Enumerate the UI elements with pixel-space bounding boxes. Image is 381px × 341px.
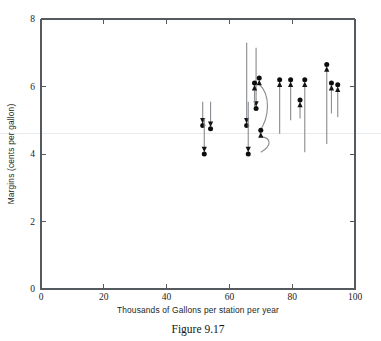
arrow-head xyxy=(288,81,293,87)
x-tick-label: 40 xyxy=(162,292,172,302)
data-point-dot xyxy=(252,81,257,86)
data-point-dot xyxy=(208,126,213,131)
data-arrows-group xyxy=(200,43,340,157)
x-tick-label: 20 xyxy=(99,292,109,302)
arrow-head xyxy=(297,102,302,108)
data-point-dot xyxy=(202,152,207,157)
data-point-dot xyxy=(277,77,282,82)
x-tick-label: 100 xyxy=(348,292,363,302)
data-point-dot xyxy=(254,106,259,111)
arrow-shaft-curved xyxy=(259,84,267,132)
x-axis-title: Thousands of Gallons per station per yea… xyxy=(117,305,279,315)
x-axis-tick-labels: 020406080100 xyxy=(39,292,363,302)
data-arrow xyxy=(258,128,269,153)
arrow-head xyxy=(202,147,207,153)
data-arrow xyxy=(257,75,268,132)
data-point-dot xyxy=(335,82,340,87)
data-arrow xyxy=(329,81,334,114)
y-tick-label: 4 xyxy=(30,149,35,159)
y-tick-label: 6 xyxy=(30,82,35,92)
y-tick-label: 2 xyxy=(30,217,35,227)
tick-marks-group xyxy=(41,19,355,289)
arrow-head xyxy=(324,66,329,72)
data-arrow xyxy=(302,77,307,152)
arrow-head xyxy=(208,121,213,127)
figure-container: 020406080100 02468 Thousands of Gallons … xyxy=(0,0,381,341)
arrow-head xyxy=(257,80,262,86)
arrow-head xyxy=(329,85,334,91)
x-tick-label: 0 xyxy=(39,292,44,302)
plot-frame xyxy=(41,19,355,289)
figure-caption: Figure 9.17 xyxy=(171,323,224,336)
y-axis-title: Margins (cents per gallon) xyxy=(6,104,16,205)
data-arrow xyxy=(277,77,282,134)
data-point-dot xyxy=(288,77,293,82)
axes-group xyxy=(41,19,355,289)
arrow-head xyxy=(258,132,263,138)
arrow-head xyxy=(335,87,340,93)
data-arrow xyxy=(208,102,213,132)
arrow-head xyxy=(302,81,307,87)
y-tick-label: 8 xyxy=(30,14,35,24)
figure-9-17-plot: 020406080100 02468 Thousands of Gallons … xyxy=(0,0,381,341)
data-arrow xyxy=(335,82,340,117)
x-tick-label: 80 xyxy=(287,292,297,302)
x-tick-label: 60 xyxy=(225,292,235,302)
data-arrow xyxy=(297,97,302,118)
data-point-dot xyxy=(257,75,262,80)
arrow-head xyxy=(246,147,251,153)
data-point-dot xyxy=(246,152,251,157)
data-arrow xyxy=(324,62,329,144)
data-point-dot xyxy=(324,62,329,67)
y-tick-label: 0 xyxy=(30,284,35,294)
data-point-dot xyxy=(329,81,334,86)
data-arrow xyxy=(288,77,293,120)
data-point-dot xyxy=(258,128,263,133)
arrow-shaft-curved xyxy=(261,137,269,153)
y-axis-tick-labels: 02468 xyxy=(30,14,35,294)
data-point-dot xyxy=(298,97,303,102)
data-point-dot xyxy=(302,77,307,82)
arrow-head xyxy=(277,81,282,87)
